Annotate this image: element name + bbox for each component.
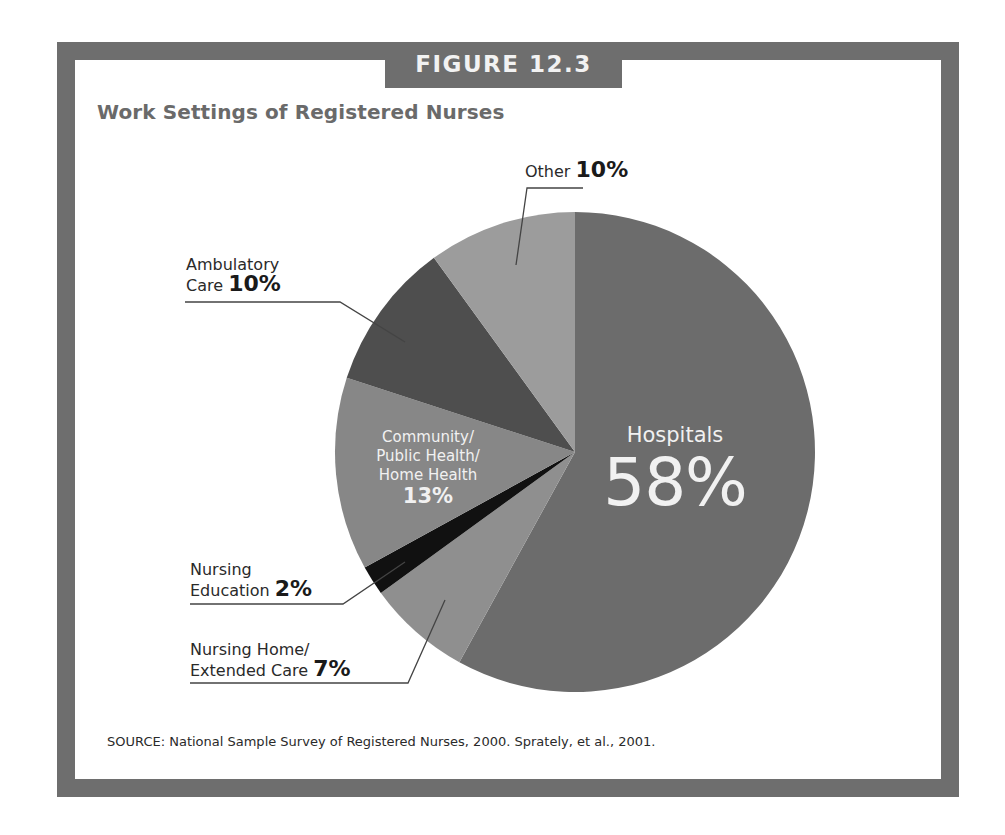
- label-nursing-home: Nursing Home/ Extended Care 7%: [190, 640, 351, 680]
- label-other: Other 10%: [525, 160, 628, 181]
- label-education: Nursing Education 2%: [190, 560, 312, 600]
- pie-chart: [0, 0, 1005, 835]
- source-note: SOURCE: National Sample Survey of Regist…: [107, 734, 655, 749]
- label-hospitals: Hospitals 58%: [600, 422, 750, 518]
- label-ambulatory: Ambulatory Care 10%: [186, 255, 281, 295]
- label-community: Community/ Public Health/ Home Health 13…: [358, 428, 498, 507]
